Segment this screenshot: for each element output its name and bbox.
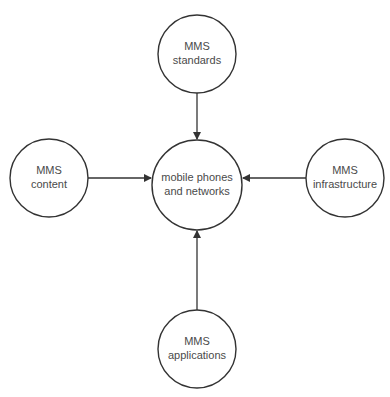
diagram-svg: mobile phones and networks MMS standards… [0, 0, 390, 397]
node-center: mobile phones and networks [152, 140, 242, 230]
node-standards-line1: MMS [184, 40, 210, 52]
node-content-line1: MMS [36, 164, 62, 176]
node-applications-line1: MMS [184, 335, 210, 347]
node-center-line1: mobile phones [161, 171, 233, 183]
node-infrastructure: MMS infrastructure [306, 139, 384, 217]
node-content: MMS content [10, 139, 88, 217]
diagram-canvas: mobile phones and networks MMS standards… [0, 0, 390, 397]
node-infrastructure-line1: MMS [332, 164, 358, 176]
node-content-line2: content [31, 178, 67, 190]
node-infrastructure-line2: infrastructure [313, 178, 377, 190]
node-applications-line2: applications [168, 349, 227, 361]
node-standards-line2: standards [173, 54, 222, 66]
node-center-line2: and networks [164, 185, 230, 197]
node-applications: MMS applications [158, 310, 236, 388]
node-standards: MMS standards [158, 15, 236, 93]
